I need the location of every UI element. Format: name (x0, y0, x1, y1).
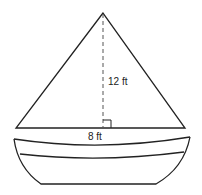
base-label: 8 ft (88, 131, 102, 142)
hull-outline (14, 137, 190, 184)
sail-triangle (16, 13, 185, 128)
sailboat-diagram: 12 ft 8 ft (0, 0, 202, 195)
hull-stripe (20, 152, 184, 158)
hull-rim-top (14, 137, 190, 145)
right-angle-marker (103, 120, 111, 128)
height-label: 12 ft (108, 76, 128, 87)
boat-hull (14, 137, 190, 184)
